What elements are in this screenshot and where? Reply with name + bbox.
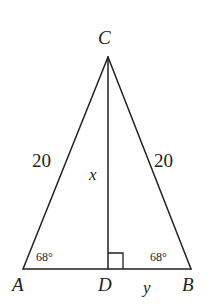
side-length-label-left: 20 <box>32 151 51 170</box>
side-cb-line <box>108 57 191 269</box>
vertex-label-d: D <box>98 275 112 294</box>
vertex-label-b: B <box>182 275 194 294</box>
vertex-label-c: C <box>98 28 111 47</box>
angle-measure-label-b: 68° <box>150 251 167 263</box>
base-segment-length-label-y: y <box>143 279 151 296</box>
side-length-label-right: 20 <box>154 151 173 170</box>
vertex-label-a: A <box>12 275 24 294</box>
right-angle-marker <box>108 253 123 269</box>
geometry-figure: C A D B 20 20 x y 68° 68° <box>0 0 207 306</box>
angle-measure-label-a: 68° <box>36 251 53 263</box>
altitude-length-label-x: x <box>89 166 97 183</box>
